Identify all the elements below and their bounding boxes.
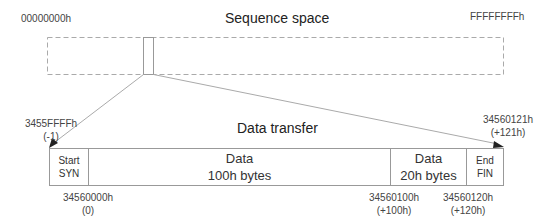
projection-line-right [154,75,499,145]
sequence-start-label: 00000000h [21,12,71,25]
segment-data-100h: Data 100h bytes [89,148,390,185]
marker-bottom-start: 34560000h (0) [56,191,120,217]
segment-data-20h: Data 20h bytes [391,148,466,185]
selected-window-box [144,38,154,75]
data-transfer-title: Data transfer [237,120,318,136]
sequence-space-title: Sequence space [225,10,329,26]
sequence-space-box [48,38,504,75]
segment-start-syn: Start SYN [50,148,88,185]
arrow-right-icon [493,141,504,148]
segment-end-fin: End FIN [467,148,503,185]
marker-top-right: 34560121h (+121h) [470,113,546,139]
sequence-end-label: FFFFFFFFh [470,10,524,23]
marker-bottom-120h: 34560120h (+120h) [436,191,500,217]
marker-top-left: 3455FFFFh (-1) [19,117,83,143]
marker-bottom-100h: 34560100h (+100h) [362,191,426,217]
